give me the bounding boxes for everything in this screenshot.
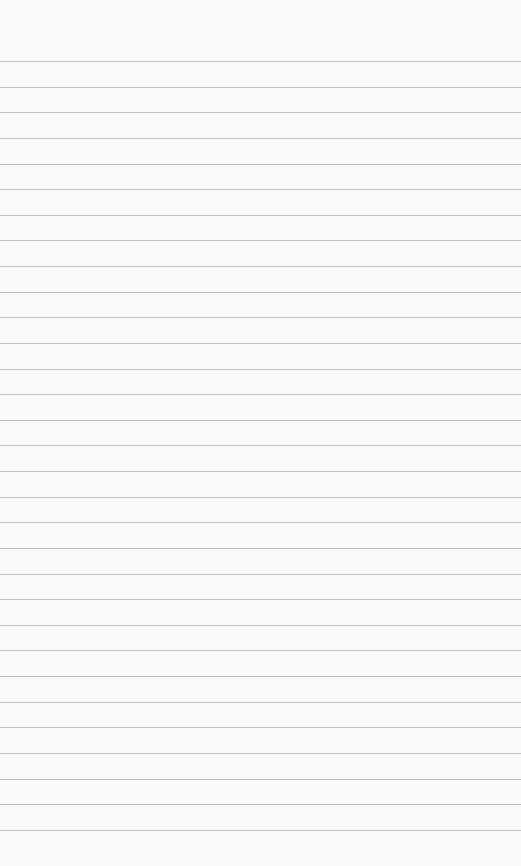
ruled-line <box>0 599 521 600</box>
ruled-line <box>0 266 521 267</box>
ruled-line <box>0 779 521 780</box>
ruled-line <box>0 317 521 318</box>
ruled-line <box>0 522 521 523</box>
ruled-line <box>0 676 521 677</box>
ruled-line <box>0 420 521 421</box>
ruled-line <box>0 727 521 728</box>
ruled-line <box>0 625 521 626</box>
ruled-line <box>0 240 521 241</box>
ruled-line <box>0 394 521 395</box>
ruled-line <box>0 138 521 139</box>
ruled-line <box>0 164 521 165</box>
ruled-line <box>0 830 521 831</box>
lined-paper <box>0 0 521 866</box>
ruled-line <box>0 87 521 88</box>
ruled-line <box>0 471 521 472</box>
ruled-line <box>0 189 521 190</box>
ruled-line <box>0 292 521 293</box>
ruled-line <box>0 804 521 805</box>
ruled-line <box>0 650 521 651</box>
ruled-line <box>0 702 521 703</box>
ruled-line <box>0 497 521 498</box>
ruled-line <box>0 548 521 549</box>
ruled-line <box>0 215 521 216</box>
ruled-line <box>0 445 521 446</box>
ruled-line <box>0 343 521 344</box>
ruled-line <box>0 574 521 575</box>
ruled-line <box>0 369 521 370</box>
ruled-line <box>0 753 521 754</box>
ruled-line <box>0 112 521 113</box>
ruled-line <box>0 61 521 62</box>
